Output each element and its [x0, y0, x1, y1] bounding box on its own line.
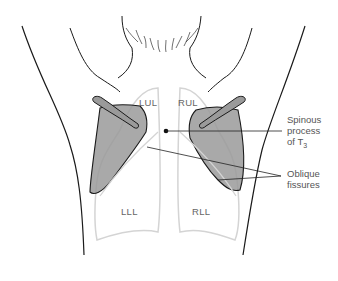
oblique-fissures-label: Oblique fissures — [287, 168, 320, 190]
spinous-process-label: Spinous process of T3 — [287, 114, 321, 151]
left-scapula — [90, 105, 147, 194]
hair — [126, 28, 198, 52]
right-neck — [190, 16, 206, 78]
left-neck — [118, 16, 132, 78]
torso-left-outline — [22, 26, 84, 255]
label-rll: RLL — [192, 206, 210, 217]
left-shoulder — [70, 28, 120, 92]
label-lll: LLL — [121, 206, 138, 217]
label-rul: RUL — [178, 97, 198, 108]
right-shoulder — [208, 28, 252, 92]
label-lul: LUL — [139, 97, 157, 108]
